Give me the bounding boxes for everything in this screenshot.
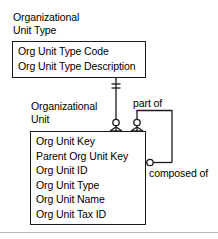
relationship-line-type-to-unit (112, 78, 121, 120)
entity-title-organizational-unit: Organizational Unit (31, 100, 97, 125)
attribute-item: Org Unit ID (36, 163, 128, 178)
er-diagram-canvas: Organizational Unit Type Org Unit Type C… (0, 0, 218, 239)
relationship-label-composed-of: composed of (149, 167, 208, 179)
attribute-list-organizational-unit-type: Org Unit Type Code Org Unit Type Descrip… (18, 44, 136, 73)
attribute-item: Org Unit Key (36, 134, 128, 149)
attribute-item: Org Unit Name (36, 192, 128, 207)
attribute-item: Parent Org Unit Key (36, 149, 128, 164)
attribute-list-organizational-unit: Org Unit Key Parent Org Unit Key Org Uni… (36, 134, 128, 222)
attribute-item: Org Unit Type Code (18, 44, 136, 59)
attribute-item: Org Unit Type Description (18, 59, 136, 74)
attribute-item: Org Unit Type (36, 178, 128, 193)
entity-title-organizational-unit-type: Organizational Unit Type (13, 11, 79, 36)
attribute-item: Org Unit Tax ID (36, 207, 128, 222)
crows-foot-symbol-part-of (131, 119, 143, 131)
relationship-label-part-of: part of (133, 97, 162, 109)
crows-foot-symbol-classified-by (110, 119, 122, 131)
